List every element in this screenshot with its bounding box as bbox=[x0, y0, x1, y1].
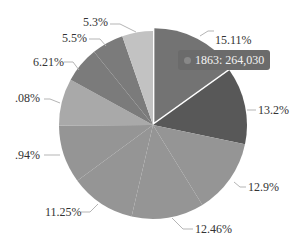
tooltip-series-dot-icon bbox=[184, 57, 191, 64]
slice-label-5: .94% bbox=[15, 148, 40, 162]
leader-line-3 bbox=[172, 218, 193, 229]
tooltip-text: 1863: 264,030 bbox=[195, 50, 264, 70]
leader-line-6 bbox=[44, 99, 60, 103]
pie-chart: 15.11%13.2%12.9%12.46%11.25%.94%.08%6.21… bbox=[0, 0, 303, 244]
leader-line-4 bbox=[81, 204, 98, 212]
leader-line-0 bbox=[200, 31, 214, 36]
leader-line-7 bbox=[64, 62, 79, 70]
slice-label-0: 15.11% bbox=[215, 33, 252, 47]
slice-label-4: 11.25% bbox=[45, 205, 82, 219]
slice-label-3: 12.46% bbox=[195, 222, 232, 236]
slice-label-6: .08% bbox=[15, 91, 40, 105]
chart-tooltip: 1863: 264,030 bbox=[178, 50, 270, 70]
slice-label-8: 5.5% bbox=[62, 31, 87, 45]
slice-label-7: 6.21% bbox=[33, 55, 64, 69]
slice-label-1: 13.2% bbox=[258, 103, 289, 117]
leader-line-9 bbox=[110, 24, 136, 32]
slice-label-2: 12.9% bbox=[248, 180, 279, 194]
slice-label-9: 5.3% bbox=[83, 15, 108, 29]
leader-line-8 bbox=[89, 39, 106, 46]
leader-line-2 bbox=[234, 182, 246, 187]
